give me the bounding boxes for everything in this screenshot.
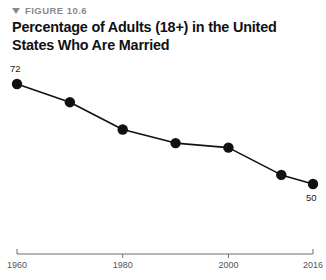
series-line [17, 84, 313, 184]
line-chart [0, 0, 326, 280]
data-point[interactable] [276, 170, 286, 180]
first-value-label: 72 [10, 63, 21, 74]
x-axis-tick-label: 1980 [113, 260, 133, 270]
last-value-label: 50 [306, 192, 317, 203]
x-axis-ticks [123, 254, 229, 258]
data-point[interactable] [12, 79, 22, 89]
x-axis-line [17, 249, 313, 254]
x-axis-tick-label: 2016 [303, 260, 323, 270]
data-point[interactable] [65, 97, 75, 107]
data-point[interactable] [118, 124, 128, 134]
data-point[interactable] [170, 138, 180, 148]
chart-axis [17, 249, 313, 258]
x-axis-tick-label: 2000 [218, 260, 238, 270]
x-axis-tick-label: 1960 [7, 260, 27, 270]
series-markers [12, 79, 318, 189]
data-point[interactable] [308, 179, 318, 189]
figure-card: FIGURE 10.6 Percentage of Adults (18+) i… [0, 0, 326, 280]
chart-series [12, 79, 318, 189]
data-point[interactable] [223, 142, 233, 152]
